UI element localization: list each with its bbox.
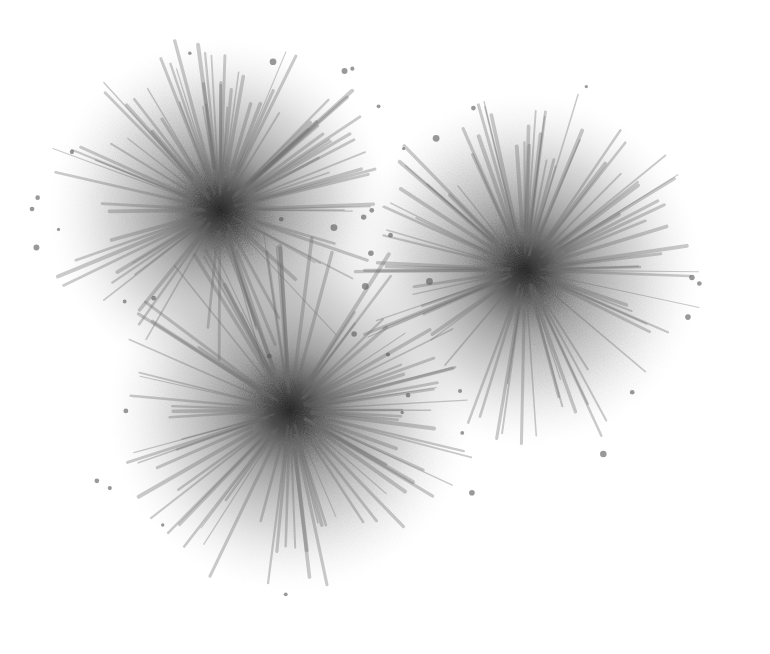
ink-blooms-graphic [0,0,770,654]
ink-artwork [0,0,770,654]
